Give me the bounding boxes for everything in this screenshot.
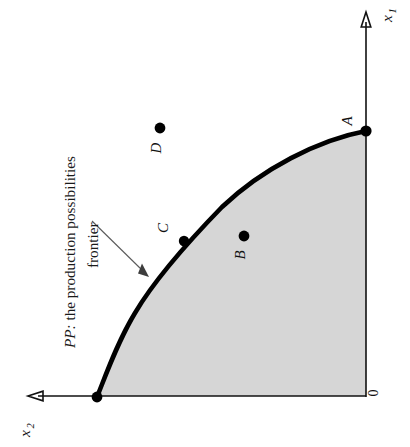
x2-axis-subscript: 2 bbox=[25, 423, 36, 429]
x1-axis-label: x bbox=[378, 15, 395, 23]
annotation-line1: the production possibilities bbox=[61, 156, 78, 321]
origin-label: 0 bbox=[366, 390, 381, 397]
point-c-label: C bbox=[155, 222, 171, 233]
production-possibilities-figure: A B C D 0 x 1 x 2 bbox=[0, 0, 410, 447]
frontier-endpoint-dot bbox=[92, 392, 103, 403]
point-a-label: A bbox=[339, 116, 355, 127]
x2-axis-label-group: x 2 bbox=[16, 423, 36, 439]
point-a-dot bbox=[360, 125, 371, 136]
annotation-line-1-group: PP: the production possibilities bbox=[61, 156, 78, 349]
point-c-dot bbox=[179, 236, 189, 246]
x2-axis-label: x bbox=[16, 430, 33, 438]
svg-text:PP: the production possibiliti: PP: the production possibilities bbox=[61, 156, 78, 349]
feasible-region bbox=[97, 131, 366, 396]
point-d-label: D bbox=[148, 142, 164, 154]
ppf-chart-svg: A B C D 0 x 1 x 2 bbox=[0, 0, 410, 447]
x1-axis-subscript: 1 bbox=[387, 8, 398, 13]
annotation-line-2-group: frontier bbox=[84, 222, 101, 268]
point-b-label: B bbox=[232, 250, 248, 259]
point-d-dot bbox=[155, 123, 166, 134]
x1-axis-label-group: x 1 bbox=[378, 8, 398, 23]
annotation-prefix: PP bbox=[61, 329, 78, 349]
point-b-dot bbox=[239, 231, 250, 242]
annotation-line2: frontier bbox=[84, 222, 101, 268]
annotation-arrowhead bbox=[138, 264, 149, 278]
